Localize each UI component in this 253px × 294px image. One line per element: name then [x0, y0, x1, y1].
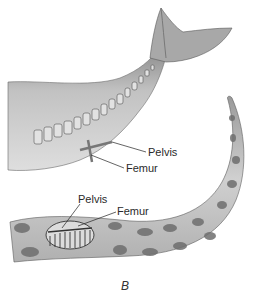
- whale-tail-illustration: [8, 8, 232, 171]
- illustration: [0, 0, 253, 294]
- snake-ribs: [46, 221, 94, 249]
- panel-label: B: [121, 279, 129, 293]
- whale-femur-label: Femur: [126, 162, 158, 174]
- snake-pelvis-label: Pelvis: [78, 193, 107, 205]
- whale-pelvis-label: Pelvis: [148, 146, 177, 158]
- snake-femur-label: Femur: [117, 205, 149, 217]
